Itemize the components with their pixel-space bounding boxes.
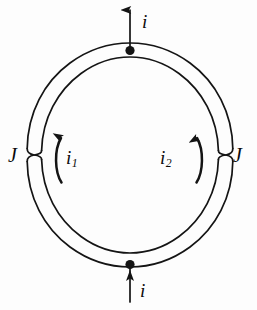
ring-upper-inner-edge xyxy=(42,57,219,151)
label-branch-current-left-base: i xyxy=(66,147,71,168)
ring-upper-outer-edge xyxy=(27,43,233,149)
junction-right-outer-neck xyxy=(226,149,233,162)
label-junction-left: J xyxy=(8,145,17,165)
label-branch-current-right: i2 xyxy=(160,148,171,167)
label-branch-current-right-subscript: 2 xyxy=(166,157,172,170)
contact-dot-bottom-icon xyxy=(125,260,134,269)
junction-right-inner-neck xyxy=(218,151,225,160)
squid-ring-figure: i i J J i1 i2 xyxy=(0,0,257,310)
label-current-top: i xyxy=(142,12,147,31)
label-junction-right: J xyxy=(233,145,242,165)
branch-arrow-right-icon xyxy=(197,138,202,183)
current-lead-bottom xyxy=(125,260,134,302)
contact-dot-top-icon xyxy=(125,46,134,55)
label-branch-current-left: i1 xyxy=(66,148,77,167)
label-branch-current-right-base: i xyxy=(160,147,165,168)
junction-left-outer-neck xyxy=(27,149,34,162)
squid-diagram-canvas xyxy=(0,0,257,310)
label-current-bottom: i xyxy=(140,281,145,300)
label-branch-current-left-subscript: 1 xyxy=(72,157,78,170)
ring-lower-inner-edge xyxy=(42,160,219,254)
branch-arrow-left-icon xyxy=(56,138,61,183)
junction-left-inner-neck xyxy=(34,151,41,160)
current-lead-top xyxy=(125,10,134,55)
